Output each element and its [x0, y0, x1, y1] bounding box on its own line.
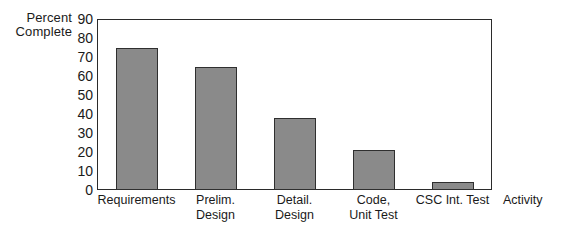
x-axis-tick-label: Requirements: [97, 193, 176, 208]
bar: [274, 118, 316, 190]
bar: [195, 67, 237, 191]
y-axis-tick-label: 10: [77, 164, 93, 178]
x-axis-tick-label: Detail. Design: [255, 193, 334, 222]
bar-chart: Percent Complete 9080706050403020100 Req…: [0, 0, 581, 237]
bar: [353, 150, 395, 190]
y-axis-tick-label: 60: [77, 69, 93, 83]
x-axis-title: Activity: [503, 193, 543, 208]
y-axis-tick-label: 30: [77, 126, 93, 140]
y-axis-tick-label: 90: [77, 12, 93, 26]
y-axis-tick-label: 20: [77, 145, 93, 159]
y-axis-tick-labels: 9080706050403020100: [60, 19, 93, 190]
bar: [432, 182, 474, 190]
y-axis-tick-label: 70: [77, 50, 93, 64]
x-axis-tick-label: Prelim. Design: [176, 193, 255, 222]
y-axis-tick-label: 50: [77, 88, 93, 102]
y-axis-tick-label: 80: [77, 31, 93, 45]
x-axis-tick-label: CSC Int. Test: [413, 193, 492, 208]
bar: [116, 48, 158, 191]
x-axis-tick-labels: RequirementsPrelim. DesignDetail. Design…: [97, 193, 492, 233]
y-axis-tick-label: 40: [77, 107, 93, 121]
x-axis-tick-label: Code, Unit Test: [334, 193, 413, 222]
y-axis-tick-label: 0: [85, 183, 93, 197]
bars-container: [97, 19, 492, 190]
